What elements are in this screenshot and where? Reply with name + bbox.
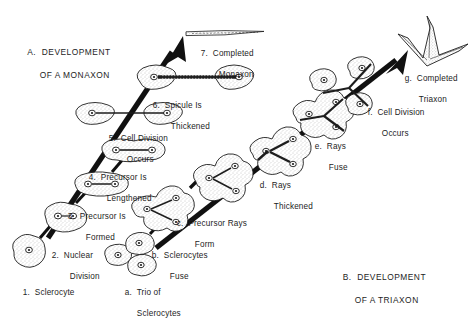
section-b-line1: B. DEVELOPMENT <box>343 272 426 282</box>
label-step-7-line2: Monaxon <box>219 70 254 81</box>
label-step-1-line1: 1. Sclerocyte <box>23 288 75 297</box>
label-step-c-line2: Form <box>195 240 215 251</box>
label-step-b-line1: b. Sclerocytes <box>152 251 208 260</box>
label-step-4-line1: 4. Precursor Is <box>89 173 147 182</box>
sclerocyte-step-1 <box>13 234 46 267</box>
label-step-4: 4. Precursor Is Lengthened <box>84 162 152 204</box>
label-step-3-line1: 3. Precursor Is <box>68 212 126 221</box>
label-step-a-line2: Sclerocytes <box>137 309 181 319</box>
label-step-d-line1: d. Rays <box>260 181 291 190</box>
label-step-a: a. Trio of Sclerocytes <box>120 277 181 319</box>
label-step-c: c. Precursor Rays Form <box>172 208 247 250</box>
label-step-5-line2: Occurs <box>127 155 154 166</box>
section-b-line2: OF A TRIAXON <box>355 295 419 306</box>
label-step-f-line1: f. Cell Division <box>368 108 425 117</box>
triaxon-spicule-icon <box>398 16 468 66</box>
label-step-g: g. Completed Triaxon <box>400 63 458 105</box>
sclerocyte-step-c <box>193 154 253 202</box>
label-step-2: 2. Nuclear Division <box>47 240 100 282</box>
label-step-3: 3. Precursor Is Formed <box>63 201 126 243</box>
label-step-e: e. Rays Fuse <box>310 131 348 173</box>
label-step-6: 6. Spicule Is Thickened <box>148 90 210 132</box>
label-step-c-line1: c. Precursor Rays <box>177 219 247 228</box>
label-step-g-line2: Triaxon <box>419 95 447 106</box>
label-step-a-line1: a. Trio of <box>125 288 161 297</box>
section-a-line2: OF A MONAXON <box>40 70 110 81</box>
label-step-3-line2: Formed <box>86 233 115 244</box>
section-b-title: B. DEVELOPMENT OF A TRIAXON <box>337 261 426 307</box>
label-step-2-line1: 2. Nuclear <box>52 251 93 260</box>
label-step-f-line2: Occurs <box>382 129 409 140</box>
label-step-6-line1: 6. Spicule Is <box>153 101 202 110</box>
label-step-2-line2: Division <box>70 272 100 283</box>
label-step-d: d. Rays Thickened <box>255 170 313 212</box>
label-step-d-line2: Thickened <box>274 202 313 213</box>
label-step-5-line1: 5. Cell Division <box>109 134 168 143</box>
monaxon-spicule-icon <box>186 31 264 36</box>
label-step-7: 7. Completed Monaxon <box>196 38 254 80</box>
label-step-b-line2: Fuse <box>170 272 189 283</box>
label-step-e-line1: e. Rays <box>315 142 346 151</box>
section-a-line1: A. DEVELOPMENT <box>27 47 110 57</box>
section-a-title: A. DEVELOPMENT OF A MONAXON <box>22 36 111 82</box>
label-step-7-line1: 7. Completed <box>201 49 254 58</box>
label-step-6-line2: Thickened <box>171 122 210 133</box>
label-step-4-line2: Lengthened <box>107 194 152 205</box>
label-step-e-line2: Fuse <box>329 163 348 174</box>
label-step-g-line1: g. Completed <box>405 74 458 83</box>
